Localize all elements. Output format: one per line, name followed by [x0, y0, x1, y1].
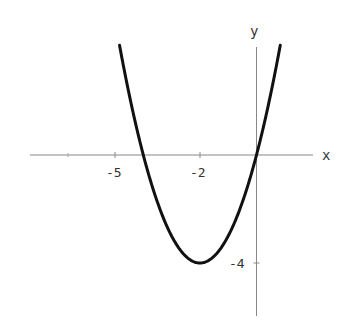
x-tick-label-minus5: -5 [106, 165, 122, 180]
x-axis-label: x [322, 147, 330, 163]
y-axis-label: y [250, 23, 258, 39]
plot-canvas: -5 -2 -4 x y [0, 0, 362, 321]
x-tick-label-minus2: -2 [190, 165, 206, 180]
y-tick-label-minus4: -4 [229, 256, 245, 271]
